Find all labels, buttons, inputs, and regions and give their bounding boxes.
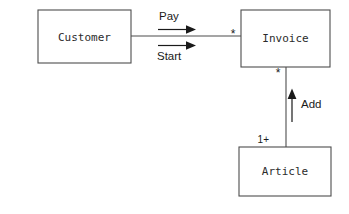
add-arrow-head-icon: [288, 89, 297, 100]
class-label-article: Article: [262, 165, 308, 178]
add-arrow-label: Add: [301, 98, 321, 110]
start-arrow-label: Start: [157, 50, 182, 62]
pay-arrow-label: Pay: [159, 10, 179, 22]
pay-arrow-head-icon: [186, 25, 196, 34]
multiplicity-invoice-bottom: *: [276, 66, 281, 80]
diagram-canvas: Customer Invoice Article Pay Start Add *…: [0, 0, 349, 214]
class-label-invoice: Invoice: [262, 32, 308, 45]
multiplicity-invoice-left: *: [231, 27, 236, 41]
multiplicity-article-top: 1+: [258, 134, 270, 145]
start-arrow-head-icon: [186, 41, 196, 50]
uml-diagram-surface: Customer Invoice Article Pay Start Add *…: [0, 0, 349, 214]
class-label-customer: Customer: [58, 31, 111, 44]
